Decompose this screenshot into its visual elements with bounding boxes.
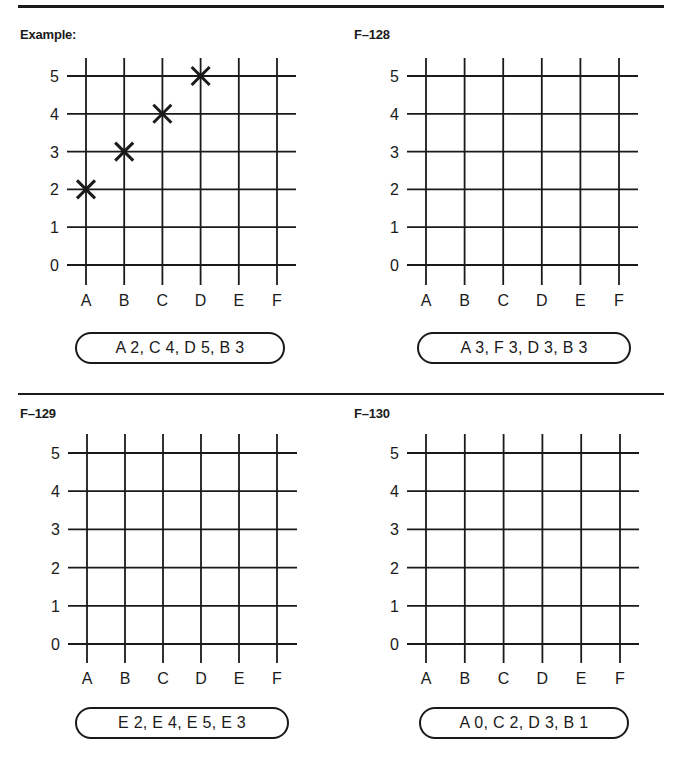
y-axis-label: 5 (390, 68, 399, 85)
y-axis-label: 3 (50, 144, 59, 161)
x-axis-label: B (459, 292, 470, 309)
x-axis-label: F (614, 292, 624, 309)
x-axis-label: D (195, 670, 207, 687)
x-axis-label: A (421, 670, 432, 687)
x-axis-label: E (576, 670, 587, 687)
x-axis-label: D (536, 292, 548, 309)
y-axis-label: 0 (390, 257, 399, 274)
y-axis-label: 4 (390, 483, 399, 500)
x-axis-label: C (157, 292, 169, 309)
panel-f-128: F–128 012345ABCDEF A 3, F 3, D 3, B 3 (342, 0, 684, 380)
y-axis-label: 1 (51, 598, 60, 615)
coordinate-grid: 012345ABCDEF (342, 383, 684, 703)
coordinates-pill: A 0, C 2, D 3, B 1 (419, 707, 629, 739)
x-axis-label: A (81, 292, 92, 309)
x-axis-label: D (537, 670, 549, 687)
x-axis-label: C (157, 670, 169, 687)
panel-example: Example: 012345ABCDEF A 2, C 4, D 5, B 3 (0, 0, 342, 380)
x-axis-label: E (233, 292, 244, 309)
coordinate-grid: 012345ABCDEF (0, 0, 342, 320)
y-axis-label: 5 (51, 445, 60, 462)
x-axis-label: F (615, 670, 625, 687)
coordinates-pill: A 2, C 4, D 5, B 3 (75, 332, 285, 364)
y-axis-label: 1 (390, 219, 399, 236)
x-axis-label: F (272, 670, 282, 687)
coordinate-grid: 012345ABCDEF (342, 0, 684, 320)
x-axis-label: B (120, 670, 131, 687)
y-axis-label: 4 (50, 106, 59, 123)
coordinates-pill: E 2, E 4, E 5, E 3 (75, 707, 289, 739)
y-axis-label: 3 (390, 521, 399, 538)
x-axis-label: B (119, 292, 130, 309)
x-axis-label: E (575, 292, 586, 309)
x-axis-label: A (421, 292, 432, 309)
y-axis-label: 4 (390, 106, 399, 123)
y-axis-label: 2 (390, 181, 399, 198)
y-axis-label: 0 (51, 636, 60, 653)
y-axis-label: 2 (51, 560, 60, 577)
y-axis-label: 2 (390, 560, 399, 577)
x-axis-label: C (497, 292, 509, 309)
x-axis-label: B (459, 670, 470, 687)
x-axis-label: E (234, 670, 245, 687)
y-axis-label: 5 (50, 68, 59, 85)
coordinates-pill: A 3, F 3, D 3, B 3 (417, 332, 631, 364)
coordinate-grid: 012345ABCDEF (0, 383, 342, 703)
y-axis-label: 5 (390, 445, 399, 462)
y-axis-label: 4 (51, 483, 60, 500)
x-axis-label: C (498, 670, 510, 687)
y-axis-label: 1 (390, 598, 399, 615)
y-axis-label: 1 (50, 219, 59, 236)
y-axis-label: 2 (50, 181, 59, 198)
x-axis-label: D (195, 292, 207, 309)
y-axis-label: 0 (50, 257, 59, 274)
y-axis-label: 0 (390, 636, 399, 653)
y-axis-label: 3 (390, 144, 399, 161)
x-axis-label: A (82, 670, 93, 687)
y-axis-label: 3 (51, 521, 60, 538)
panel-f-129: F–129 012345ABCDEF E 2, E 4, E 5, E 3 (0, 383, 342, 763)
x-axis-label: F (272, 292, 282, 309)
panel-f-130: F–130 012345ABCDEF A 0, C 2, D 3, B 1 (342, 383, 684, 763)
